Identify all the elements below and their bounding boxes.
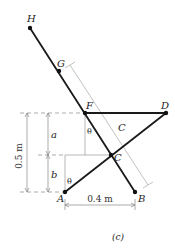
joint-b (133, 190, 137, 194)
joint-c (109, 153, 113, 157)
dimension-0-5m (25, 113, 29, 192)
label-h: H (26, 13, 36, 24)
angle-theta-f: θ (87, 127, 92, 136)
members (30, 28, 166, 192)
label-a: A (56, 193, 64, 204)
dimension-slant (65, 62, 153, 188)
angle-theta-a: θ (67, 177, 72, 186)
joint-d (164, 111, 168, 115)
truss-diagram: 0.5 m a b 0.4 m C H (0, 0, 175, 250)
dimension-label-b: b (51, 169, 57, 180)
label-f: F (85, 100, 94, 111)
dimension-label-0-5m: 0.5 m (14, 143, 24, 169)
label-d: D (160, 100, 169, 111)
reference-lines (20, 113, 84, 192)
joint-f (83, 111, 87, 115)
dimension-a-b (46, 113, 50, 192)
joint-h (28, 26, 32, 30)
figure-caption: (c) (112, 232, 125, 242)
joint-g (57, 69, 61, 73)
label-c: C (114, 152, 122, 163)
joints (28, 26, 168, 194)
label-g: G (57, 58, 65, 69)
slant-label-c: C (118, 122, 126, 133)
dimension-label-a: a (51, 129, 57, 140)
member-hb (30, 28, 135, 192)
label-b: B (137, 193, 145, 204)
dimension-label-0-4m: 0.4 m (87, 194, 113, 204)
